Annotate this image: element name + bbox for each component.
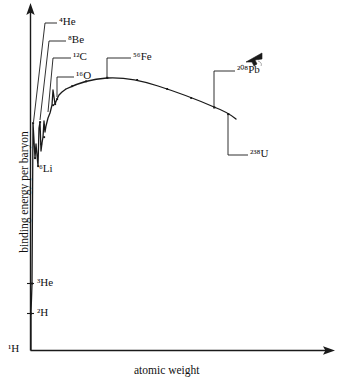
point-kr84: [136, 79, 138, 81]
point-nd150: [190, 97, 192, 99]
leader-u238: [228, 114, 248, 155]
curve-main-hump: [66, 78, 236, 119]
x-axis-title: atomic weight: [134, 364, 199, 376]
label-pb208: ²⁰⁸Pb: [237, 64, 260, 75]
label-h2: ²H: [37, 307, 48, 318]
point-ne20: [71, 85, 73, 87]
data-point-markers: [30, 77, 229, 315]
point-n14: [54, 103, 56, 105]
label-fe56: ⁵⁶Fe: [133, 51, 152, 62]
label-li6: ⁶Li: [39, 163, 53, 174]
point-sn120: [166, 88, 168, 90]
point-b11: [43, 136, 45, 138]
plot-canvas: [0, 0, 343, 389]
leader-fe56: [107, 58, 131, 78]
leader-be8: [40, 41, 66, 120]
point-o16: [56, 98, 58, 100]
point-li6: [34, 157, 36, 159]
label-c12: ¹²C: [73, 51, 87, 62]
y-axis-title: binding energy per baryon: [18, 112, 30, 272]
point-he4: [32, 122, 34, 124]
binding-energy-figure: binding energy per baryon atomic weight …: [0, 0, 343, 389]
label-h1: ¹H: [8, 343, 19, 354]
point-h2: [30, 313, 32, 315]
point-be9: [40, 143, 42, 145]
leader-pb208: [214, 71, 235, 107]
label-be8: ⁸Be: [68, 34, 84, 45]
label-he3: ³He: [37, 277, 53, 288]
point-be8: [39, 121, 41, 123]
label-o16: ¹⁶O: [76, 70, 91, 81]
label-u238: ²³⁸U: [250, 148, 268, 159]
binding-energy-curve-group: [31, 78, 236, 350]
point-he3: [31, 283, 33, 285]
point-c12: [52, 104, 54, 106]
label-he4: ⁴He: [59, 16, 76, 27]
